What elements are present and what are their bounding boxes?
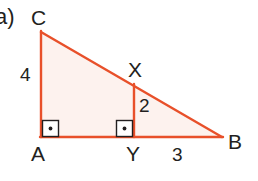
geometry-figure: a) C A B X Y 4 2 3 [0, 0, 258, 181]
right-angle-marker-y [117, 121, 133, 137]
length-label-yb: 3 [172, 145, 183, 164]
right-angle-marker-a [43, 121, 59, 137]
vertex-label-y: Y [126, 143, 140, 164]
vertex-label-c: C [31, 7, 46, 28]
vertex-label-a: A [31, 143, 45, 164]
length-label-ca: 4 [20, 65, 31, 84]
vertex-label-x: X [128, 59, 142, 80]
part-label: a) [0, 6, 15, 28]
vertex-label-b: B [228, 131, 242, 152]
length-label-xy: 2 [139, 96, 150, 115]
